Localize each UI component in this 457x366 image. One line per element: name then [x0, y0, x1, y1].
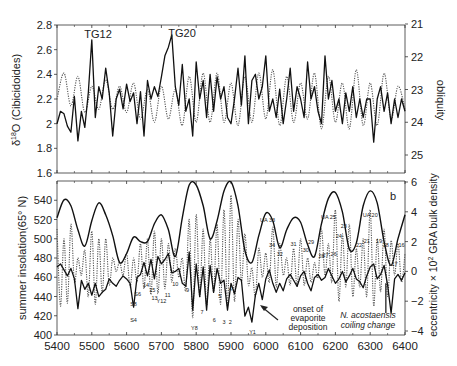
ytick-right-label: 21	[411, 18, 423, 30]
ytick-label: 2.4	[37, 68, 52, 80]
ytick-right-label: −2	[411, 295, 424, 307]
xtick-label: 5600	[114, 340, 140, 352]
xtick-label: 5500	[79, 340, 105, 352]
cycle-label: Y1	[249, 329, 256, 335]
ytick-label: 480	[34, 252, 52, 264]
cycle-label: S6	[134, 291, 141, 297]
svg-text:N. acostaensis: N. acostaensis	[340, 310, 396, 320]
ytick-right-label: 6	[411, 176, 417, 188]
ytick-label: 2.8	[37, 19, 52, 31]
annotation-tg20: TG20	[168, 27, 196, 39]
annotation-coiling-change: N. acostaensis coiling change	[340, 310, 396, 330]
cycle-label: 16	[398, 242, 404, 248]
cycle-label: 27	[323, 252, 329, 258]
cycle-label: 14	[143, 282, 149, 288]
ytick-label: 520	[34, 214, 52, 226]
cycle-label: 5	[218, 293, 221, 299]
ytick-label: 540	[34, 194, 52, 206]
xtick-label: 6000	[253, 340, 279, 352]
xtick-label: 6100	[288, 340, 314, 352]
cycle-label: 32	[277, 251, 283, 257]
ytick-right-label: 4	[411, 206, 417, 218]
cycle-label: 19	[376, 238, 382, 244]
y-axis-label-insolation: summer insolation(65° N)	[16, 196, 28, 320]
cycle-label: 22	[356, 242, 362, 248]
ytick-label: 460	[34, 271, 52, 283]
ytick-label: 2.6	[37, 44, 52, 56]
ytick-label: 1.6	[37, 167, 52, 179]
xtick-label: 5700	[149, 340, 175, 352]
y-axis-label-obliquity: obliquity	[435, 80, 447, 121]
cycle-label: Y12	[157, 298, 167, 304]
panel-a-series	[57, 35, 405, 142]
cycle-label: 6	[213, 317, 216, 323]
panel-label-b: b	[390, 190, 396, 202]
insolation-line	[57, 195, 405, 317]
ytick-label: 440	[34, 291, 52, 303]
y-axis-label-d18o: δ18O (Cibicidoides)	[10, 54, 22, 146]
ytick-right-label: 22	[411, 51, 423, 63]
svg-text:coiling change: coiling change	[341, 320, 396, 330]
ytick-right-label: 0	[411, 265, 417, 277]
annotation-evaporite: onset of evaporite deposition	[260, 304, 328, 332]
chart-svg: 2.82.62.42.221.81.6212223242554052050048…	[0, 0, 457, 366]
cycle-label: 29	[308, 239, 314, 245]
xtick-label: 5800	[183, 340, 209, 352]
cycle-label: 9	[186, 287, 189, 293]
ytick-right-label: −4	[411, 325, 424, 337]
eccentricity-line	[57, 181, 405, 265]
cycle-label: 15	[149, 287, 155, 293]
xtick-label: 5400	[44, 340, 70, 352]
xtick-label: 6300	[357, 340, 383, 352]
panel-b-series	[57, 181, 405, 322]
cycle-label: Y8	[191, 325, 198, 331]
ytick-right-label: 23	[411, 84, 423, 96]
cycle-label: 3	[223, 319, 226, 325]
cycle-label: S4	[130, 317, 137, 323]
cycle-label: 31	[291, 241, 297, 247]
ytick-right-label: 24	[411, 116, 423, 128]
y-axis-label-eccentricity: eccentricity × 102 GRA bulk density	[427, 172, 439, 336]
annotation-tg12: TG12	[84, 28, 112, 40]
ytick-label: 500	[34, 233, 52, 245]
cycle-label: 2	[229, 319, 232, 325]
xtick-label: 5900	[218, 340, 244, 352]
cycle-label: 26	[331, 251, 337, 257]
figure: 2.82.62.42.221.81.6212223242554052050048…	[0, 0, 457, 366]
ytick-label: 1.8	[37, 142, 52, 154]
svg-text:deposition: deposition	[289, 322, 328, 332]
ytick-label: 2	[46, 118, 52, 130]
cycle-label: 18	[383, 242, 389, 248]
cycle-label: 21	[364, 238, 370, 244]
ytick-label: 2.2	[37, 93, 52, 105]
cycle-label: 11	[165, 292, 171, 298]
cycle-label: 7	[201, 309, 204, 315]
cycle-label: S8	[130, 301, 137, 307]
cycle-label: UA 33	[260, 217, 275, 223]
cycle-label: UA 20	[363, 212, 378, 218]
cycle-label: UA 25	[321, 214, 336, 220]
xtick-label: 6400	[392, 340, 418, 352]
cycle-label: 23	[341, 223, 347, 229]
ytick-right-label: 25	[411, 149, 423, 161]
cycle-label: 4	[229, 286, 232, 292]
cycle-label: 34	[269, 242, 275, 248]
ytick-right-label: 2	[411, 236, 417, 248]
xtick-label: 6200	[323, 340, 349, 352]
cycle-label: 30	[303, 247, 309, 253]
cycle-label: 24	[336, 233, 342, 239]
cycle-label: 17	[391, 261, 397, 267]
ytick-label: 420	[34, 310, 52, 322]
cycle-label: 10	[172, 281, 178, 287]
d18o-line	[57, 35, 405, 142]
